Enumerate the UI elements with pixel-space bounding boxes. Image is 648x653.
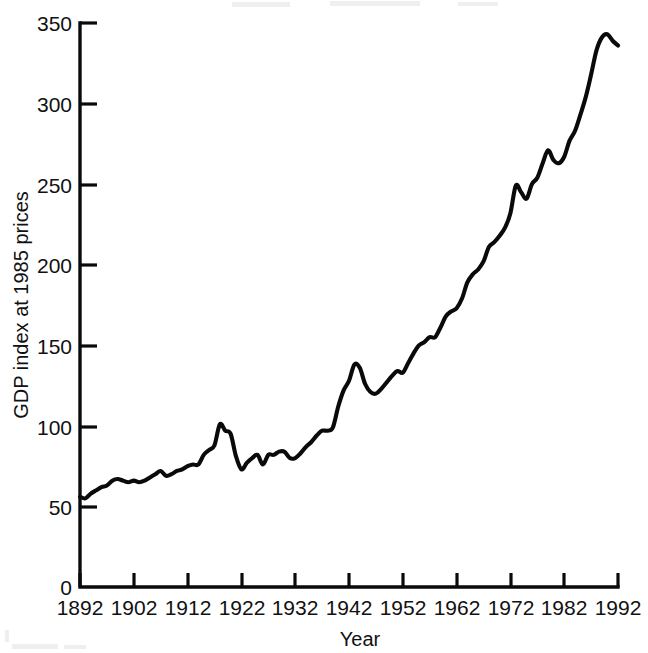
x-tick-label-1952: 1952 <box>380 596 427 619</box>
x-tick-label-1962: 1962 <box>434 596 481 619</box>
y-axis-title: GDP index at 1985 prices <box>10 191 32 419</box>
x-tick-label-1992: 1992 <box>595 596 642 619</box>
y-tick-label-150: 150 <box>37 335 72 358</box>
y-axis-title-group: GDP index at 1985 prices <box>10 191 32 419</box>
gdp-index-line-chart: 350 300 250 200 150 100 50 0 1892 190 <box>0 0 648 653</box>
x-tick-label-1982: 1982 <box>541 596 588 619</box>
x-tick-label-1942: 1942 <box>326 596 373 619</box>
y-tick-label-200: 200 <box>37 254 72 277</box>
x-tick-label-1892: 1892 <box>57 596 104 619</box>
y-tick-label-350: 350 <box>37 12 72 35</box>
x-axis-title: Year <box>340 628 381 650</box>
x-tick-label-1972: 1972 <box>488 596 535 619</box>
x-tick-label-1902: 1902 <box>111 596 158 619</box>
y-tick-label-100: 100 <box>37 416 72 439</box>
y-tick-label-250: 250 <box>37 174 72 197</box>
y-tick-label-50: 50 <box>49 496 72 519</box>
chart-background <box>0 0 648 653</box>
x-tick-label-1922: 1922 <box>219 596 266 619</box>
x-tick-label-1912: 1912 <box>165 596 212 619</box>
x-tick-label-1932: 1932 <box>272 596 319 619</box>
chart-figure: 350 300 250 200 150 100 50 0 1892 190 <box>0 0 648 653</box>
x-axis-tick-labels: 1892 1902 1912 1922 1932 1942 1952 1962 … <box>57 596 642 619</box>
y-tick-label-300: 300 <box>37 93 72 116</box>
